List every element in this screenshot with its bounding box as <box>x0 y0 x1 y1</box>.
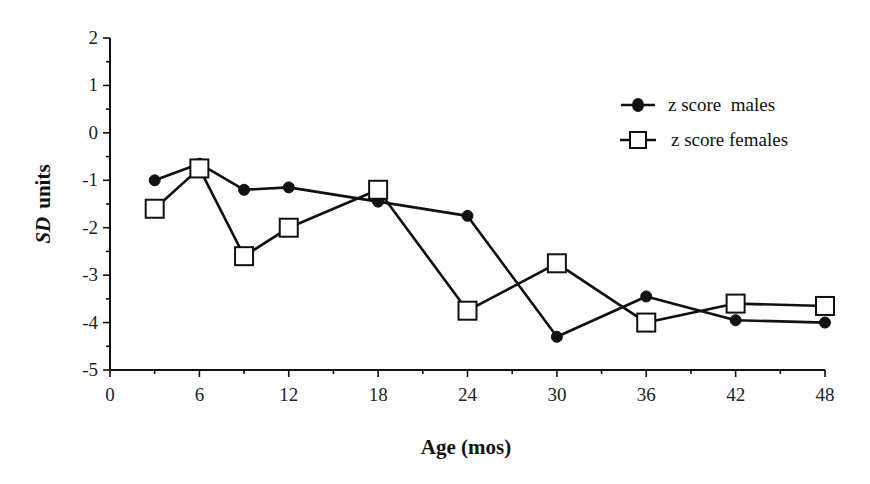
x-tick-label: 12 <box>279 384 298 405</box>
y-axis: 210-1-2-3-4-5 <box>82 27 110 380</box>
x-axis: 0612182430364248 <box>105 370 834 405</box>
x-tick-label: 48 <box>816 384 835 405</box>
female-data-point <box>727 295 745 313</box>
female-data-point <box>459 302 477 320</box>
female-data-point <box>548 254 566 272</box>
x-tick-label: 18 <box>369 384 388 405</box>
y-axis-title-rest: units <box>31 164 55 208</box>
y-tick-label: 2 <box>89 27 99 48</box>
legend: z score malesz score females <box>620 94 788 150</box>
male-data-point <box>551 331 562 342</box>
y-tick-label: -4 <box>82 312 98 333</box>
female-data-point <box>280 219 298 237</box>
female-data-point <box>816 297 834 315</box>
y-tick-label: -2 <box>82 217 98 238</box>
female-data-point <box>637 314 655 332</box>
legend-item-males: z score males <box>621 94 775 115</box>
x-tick-label: 30 <box>547 384 566 405</box>
male-data-point <box>730 315 741 326</box>
male-data-point <box>149 175 160 186</box>
female-data-point <box>190 159 208 177</box>
y-tick-label: -3 <box>82 264 98 285</box>
x-tick-label: 6 <box>195 384 205 405</box>
legend-label: z score males <box>668 94 775 115</box>
male-data-point <box>283 182 294 193</box>
y-axis-title-italic: SD <box>31 217 55 244</box>
series-layer <box>146 158 834 342</box>
x-axis-title: Age (mos) <box>421 435 511 459</box>
y-tick-label: -1 <box>82 169 98 190</box>
line-chart: 210-1-2-3-4-5 0612182430364248 Age (mos)… <box>0 0 870 484</box>
female-data-point <box>235 247 253 265</box>
legend-label: z score females <box>671 129 788 150</box>
male-data-point <box>462 210 473 221</box>
male-data-point <box>239 184 250 195</box>
x-tick-label: 42 <box>726 384 745 405</box>
x-tick-label: 0 <box>105 384 115 405</box>
legend-square-marker-icon <box>630 132 646 148</box>
x-tick-label: 36 <box>637 384 656 405</box>
female-data-point <box>146 200 164 218</box>
male-data-point <box>641 291 652 302</box>
legend-item-females: z score females <box>620 129 788 150</box>
legend-circle-marker-icon <box>632 98 644 112</box>
x-tick-label: 24 <box>458 384 478 405</box>
y-axis-title: SDunits <box>31 164 55 243</box>
female-data-point <box>369 181 387 199</box>
y-tick-label: -5 <box>82 359 98 380</box>
y-tick-label: 1 <box>89 74 99 95</box>
male-data-point <box>820 317 831 328</box>
y-tick-label: 0 <box>89 122 99 143</box>
